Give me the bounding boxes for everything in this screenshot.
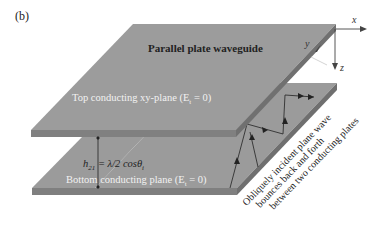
bottom-plate-label: Bottom conducting plane (Et = 0) <box>66 174 207 188</box>
axis-z-label: z <box>340 62 344 73</box>
separation-label: h21 = λ/2 cosθi <box>83 158 144 172</box>
top-plate-text: Top conducting xy-plane (E <box>72 92 189 103</box>
axis-x-label: x <box>352 14 356 25</box>
top-plate-suffix: = 0) <box>191 92 211 103</box>
panel-label: (b) <box>15 9 29 24</box>
diagram-title: Parallel plate waveguide <box>148 42 263 54</box>
bottom-plate-text: Bottom conducting plane (E <box>66 174 185 185</box>
axis-y-label: y <box>305 38 309 49</box>
top-plate-label: Top conducting xy-plane (Et = 0) <box>72 92 211 106</box>
h-equation: = λ/2 cosθ <box>95 158 142 169</box>
bottom-plate-suffix: = 0) <box>187 174 207 185</box>
theta-sub: i <box>142 164 144 172</box>
